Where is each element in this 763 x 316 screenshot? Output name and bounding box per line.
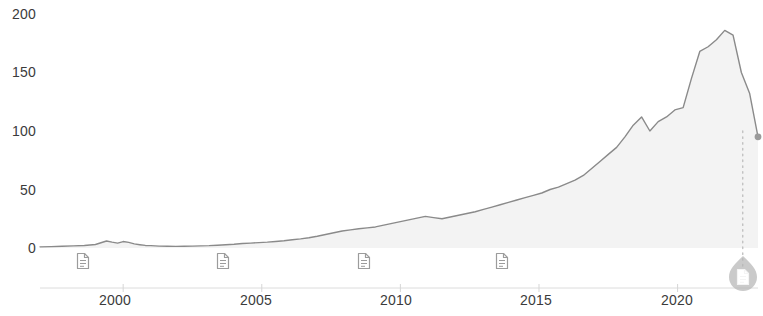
x-axis: 2000 2005 2010 2015 2020: [0, 0, 763, 316]
stock-price-chart: 200 150 100 50 0 2000 2005 2010 2015 202…: [0, 0, 763, 316]
document-marker-icon[interactable]: [75, 252, 90, 269]
document-marker-icon[interactable]: [357, 252, 372, 269]
x-tick-label: 2020: [661, 292, 693, 308]
document-marker-icon[interactable]: [494, 252, 509, 269]
x-tick-label: 2000: [99, 292, 131, 308]
document-marker-icon[interactable]: [215, 252, 230, 269]
x-tick-label: 2010: [380, 292, 412, 308]
selected-document-marker[interactable]: [725, 254, 761, 294]
x-tick-label: 2005: [240, 292, 272, 308]
x-tick-label: 2015: [520, 292, 552, 308]
